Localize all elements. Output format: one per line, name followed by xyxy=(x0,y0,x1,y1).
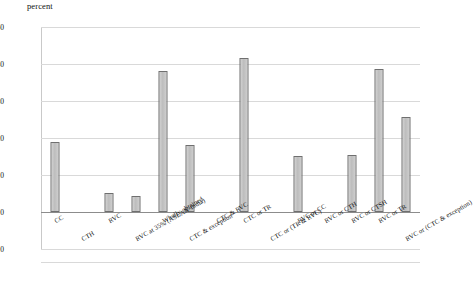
bar[interactable] xyxy=(158,71,167,212)
bar[interactable] xyxy=(104,193,113,212)
bar[interactable] xyxy=(240,58,249,212)
bar-slot xyxy=(203,27,230,212)
bar-slot xyxy=(393,27,420,212)
bar[interactable] xyxy=(402,117,411,212)
bar-slot xyxy=(285,27,312,212)
y-tick-30: 30 xyxy=(0,97,4,106)
bar-slot xyxy=(176,27,203,212)
x-axis-label: RVC xyxy=(107,211,123,225)
plot-area xyxy=(41,27,420,212)
y-tick-40: 40 xyxy=(0,60,4,69)
bar-slot xyxy=(122,27,149,212)
bar-slot xyxy=(258,27,285,212)
bar-slot xyxy=(312,27,339,212)
bar-series xyxy=(41,27,420,212)
y-tick-50: 50 xyxy=(0,23,4,32)
bar-slot xyxy=(68,27,95,212)
bar-slot xyxy=(95,27,122,212)
x-axis-label: CTH xyxy=(80,229,96,243)
x-axis-labels: CCCTHRVCRVC at 35% (ASEAN-India)Wholly o… xyxy=(41,213,420,288)
bar-slot xyxy=(231,27,258,212)
y-tick-0: 0 xyxy=(0,208,4,217)
bar-slot xyxy=(41,27,68,212)
bar-slot xyxy=(149,27,176,212)
bar-slot xyxy=(339,27,366,212)
bar[interactable] xyxy=(294,156,303,212)
y-tick-20: 20 xyxy=(0,134,4,143)
y-axis-title: percent xyxy=(27,1,53,11)
bar[interactable] xyxy=(375,69,384,212)
x-axis-label: CC xyxy=(53,214,65,225)
bar-slot xyxy=(366,27,393,212)
bar[interactable] xyxy=(131,196,140,212)
bottom-rule xyxy=(41,262,420,263)
bar[interactable] xyxy=(50,142,59,212)
y-tick-10: 10 xyxy=(0,171,4,180)
y-tick-neg10: -10 xyxy=(0,245,4,254)
